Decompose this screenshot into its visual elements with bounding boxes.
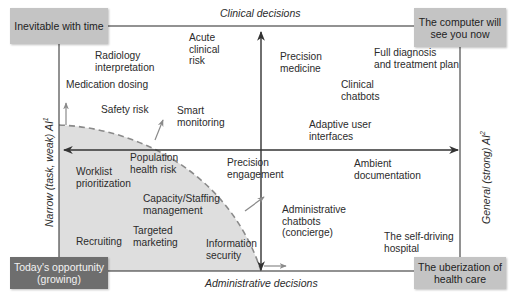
item-medication-dosing: Medication dosing (66, 79, 148, 91)
item-recruiting: Recruiting (76, 236, 122, 248)
item-targeted-marketing: Targeted marketing (133, 225, 178, 248)
item-worklist-prioritization: Worklist prioritization (76, 166, 131, 189)
axis-label-administrative-decisions: Administrative decisions (205, 277, 318, 289)
item-radiology-interpretation: Radiology interpretation (95, 50, 154, 73)
item-smart-monitoring: Smart monitoring (177, 105, 225, 128)
corner-computer-will-see-you-now: The computer will see you now (414, 8, 506, 47)
item-precision-medicine: Precision medicine (280, 51, 322, 74)
item-capacity-staffing-management: Capacity/Staffing management (143, 193, 220, 216)
corner-todays-opportunity: Today's opportunity (growing) (10, 257, 108, 289)
item-adaptive-user-interfaces: Adaptive user interfaces (309, 119, 371, 142)
item-population-health-risk: Population health risk (130, 152, 178, 175)
corner-uberization-of-health-care: The uberization of health care (414, 257, 506, 289)
item-clinical-chatbots: Clinical chatbots (341, 79, 380, 102)
item-safety-risk: Safety risk (101, 104, 149, 116)
item-precision-engagement: Precision engagement (227, 157, 284, 180)
item-acute-clinical-risk: Acute clinical risk (189, 32, 220, 67)
item-full-diagnosis-and-treatment-plan: Full diagnosis and treatment plan (374, 47, 459, 70)
item-administrative-chatbots: Administrative chatbots (concierge) (282, 204, 346, 239)
ai-healthcare-matrix: Clinical decisions Administrative decisi… (0, 0, 515, 301)
growth-arrow-diagonal-top (155, 120, 163, 140)
item-information-security: Information security (206, 238, 257, 261)
item-self-driving-hospital: The self-driving hospital (384, 231, 454, 254)
axis-label-clinical-decisions: Clinical decisions (220, 7, 301, 19)
axis-label-narrow-ai: Narrow (task, weak) AI1 (42, 117, 55, 227)
axis-label-general-ai: General (strong) AI2 (479, 131, 492, 224)
item-ambient-documentation: Ambient documentation (354, 158, 421, 181)
corner-inevitable-with-time: Inevitable with time (10, 8, 108, 44)
